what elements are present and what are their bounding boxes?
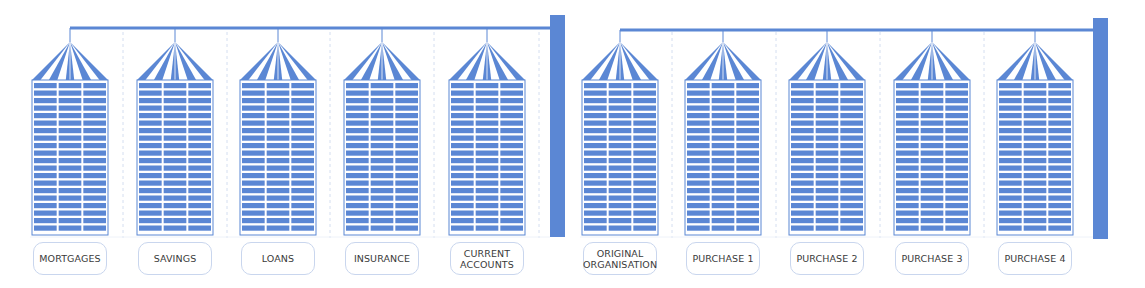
- silo-body: [894, 80, 970, 235]
- silo-roof-icon: [997, 42, 1073, 80]
- connector-post: [550, 15, 565, 237]
- silo-label: PURCHASE 3: [895, 242, 969, 275]
- silo-roof-icon: [344, 42, 420, 80]
- silo-label: SAVINGS: [138, 242, 212, 275]
- silo-label: PURCHASE 4: [998, 242, 1072, 275]
- silo-roof-icon: [582, 42, 658, 80]
- silo-label: LOANS: [241, 242, 315, 275]
- silo: [582, 30, 658, 235]
- connector-post: [1093, 18, 1108, 239]
- silo-label: INSURANCE: [345, 242, 419, 275]
- silo-body: [240, 80, 316, 235]
- silo-roof-icon: [894, 42, 970, 80]
- silo: [789, 30, 865, 235]
- silo-group-acquisitions: [580, 18, 1108, 239]
- silo-body: [685, 80, 761, 235]
- silo-group-business-lines: [30, 15, 565, 238]
- silo-label: PURCHASE 2: [790, 242, 864, 275]
- silo-label: CURRENT ACCOUNTS: [450, 242, 524, 275]
- silo-label: MORTGAGES: [33, 242, 107, 275]
- silo-body: [789, 80, 865, 235]
- silo-body: [997, 80, 1073, 235]
- silo: [137, 28, 213, 235]
- silo: [685, 30, 761, 235]
- silo: [344, 28, 420, 235]
- silo-label: PURCHASE 1: [686, 242, 760, 275]
- silo-roof-icon: [137, 42, 213, 80]
- silo-body: [32, 80, 108, 235]
- silo-roof-icon: [449, 42, 525, 80]
- silo: [32, 28, 108, 235]
- silo-roof-icon: [789, 42, 865, 80]
- silo-body: [344, 80, 420, 235]
- silo-roof-icon: [240, 42, 316, 80]
- silo-body: [582, 80, 658, 235]
- silo: [240, 28, 316, 235]
- connector-bar: [70, 27, 552, 30]
- silo: [894, 30, 970, 235]
- silo: [997, 30, 1073, 235]
- silo-body: [137, 80, 213, 235]
- silo: [449, 28, 525, 235]
- silo-roof-icon: [685, 42, 761, 80]
- silo-label: ORIGINAL ORGANISATION: [583, 242, 657, 275]
- connector-bar: [620, 29, 1095, 32]
- silo-body: [449, 80, 525, 235]
- silo-roof-icon: [32, 42, 108, 80]
